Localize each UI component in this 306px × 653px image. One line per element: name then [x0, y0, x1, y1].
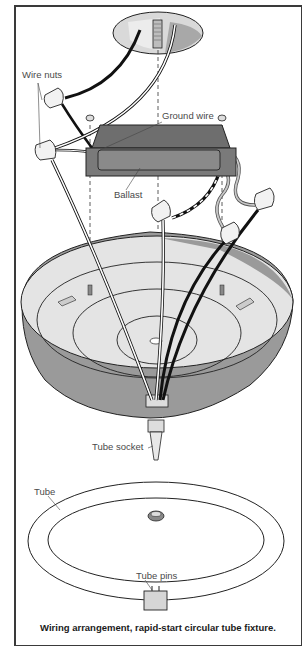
circular-tube: [28, 482, 284, 610]
label-wire-nuts: Wire nuts: [22, 70, 62, 80]
label-ground-wire: Ground wire: [162, 111, 214, 121]
mounting-stud: [153, 20, 162, 48]
figure-caption: Wiring arrangement, rapid-start circular…: [14, 623, 302, 633]
label-tube-socket: Tube socket: [92, 442, 143, 452]
label-ballast: Ballast: [114, 190, 143, 200]
wiring-diagram: [0, 0, 306, 653]
label-tube: Tube: [34, 487, 55, 497]
tube-socket: [148, 420, 164, 460]
label-tube-pins: Tube pins: [136, 571, 177, 581]
ballast: [86, 125, 236, 176]
